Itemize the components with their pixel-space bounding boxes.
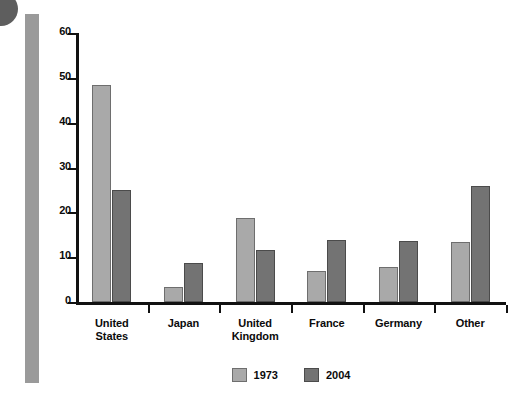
bar-1973-other bbox=[451, 242, 470, 302]
x-axis-category-label: UnitedStates bbox=[76, 317, 148, 343]
x-axis-category-label-line: Other bbox=[434, 317, 506, 330]
x-axis-category-label-line: Japan bbox=[148, 317, 220, 330]
bar-1973-united-kingdom bbox=[236, 218, 255, 302]
y-axis-tick-label: 60 bbox=[59, 25, 71, 37]
chart-legend: 19732004 bbox=[76, 368, 506, 382]
x-axis-tick-mark bbox=[148, 305, 150, 313]
x-axis-tick-mark bbox=[363, 305, 365, 313]
y-axis-tick-label: 30 bbox=[59, 160, 71, 172]
x-axis-category-label: UnitedKingdom bbox=[219, 317, 291, 343]
x-axis-tick-mark bbox=[506, 305, 508, 313]
bar-chart: 0102030405060 UnitedStatesJapanUnitedKin… bbox=[44, 10, 516, 390]
x-axis-category-label: Germany bbox=[363, 317, 435, 330]
left-margin-rule-decoration bbox=[25, 14, 39, 383]
y-axis-tick-label: 40 bbox=[59, 115, 71, 127]
x-axis-category-label-line: Germany bbox=[363, 317, 435, 330]
y-axis-tick-label: 50 bbox=[59, 70, 71, 82]
x-axis-category-label-line: States bbox=[76, 330, 148, 343]
corner-circle-decoration bbox=[0, 0, 18, 26]
x-axis-category-label: Japan bbox=[148, 317, 220, 330]
bar-2004-germany bbox=[399, 241, 418, 302]
legend-label-2004: 2004 bbox=[326, 369, 350, 381]
bar-2004-united-kingdom bbox=[256, 250, 275, 302]
x-axis-category-label-line: United bbox=[219, 317, 291, 330]
legend-item-1973[interactable]: 1973 bbox=[232, 368, 278, 382]
x-axis-tick-mark bbox=[291, 305, 293, 313]
bar-1973-france bbox=[307, 271, 326, 302]
bar-2004-united-states bbox=[112, 190, 131, 302]
legend-item-2004[interactable]: 2004 bbox=[304, 368, 350, 382]
y-axis-line bbox=[76, 33, 79, 305]
x-axis-tick-mark bbox=[219, 305, 221, 313]
legend-swatch-2004 bbox=[304, 368, 319, 382]
bar-2004-france bbox=[327, 240, 346, 302]
bar-2004-japan bbox=[184, 263, 203, 302]
bar-1973-germany bbox=[379, 267, 398, 302]
legend-label-1973: 1973 bbox=[254, 369, 278, 381]
bar-2004-other bbox=[471, 186, 490, 302]
x-axis-category-label: Other bbox=[434, 317, 506, 330]
x-axis-category-label-line: Kingdom bbox=[219, 330, 291, 343]
x-axis-category-label: France bbox=[291, 317, 363, 330]
x-axis-tick-mark bbox=[434, 305, 436, 313]
y-axis-tick-label: 20 bbox=[59, 204, 71, 216]
legend-swatch-1973 bbox=[232, 368, 247, 382]
y-axis-tick-label: 10 bbox=[59, 249, 71, 261]
x-axis-category-label-line: France bbox=[291, 317, 363, 330]
chart-page: 0102030405060 UnitedStatesJapanUnitedKin… bbox=[0, 0, 522, 397]
x-axis-category-label-line: United bbox=[76, 317, 148, 330]
plot-area: 0102030405060 UnitedStatesJapanUnitedKin… bbox=[76, 33, 506, 305]
bar-1973-japan bbox=[164, 287, 183, 302]
bar-1973-united-states bbox=[92, 85, 111, 302]
y-axis-tick-label: 0 bbox=[65, 294, 71, 306]
